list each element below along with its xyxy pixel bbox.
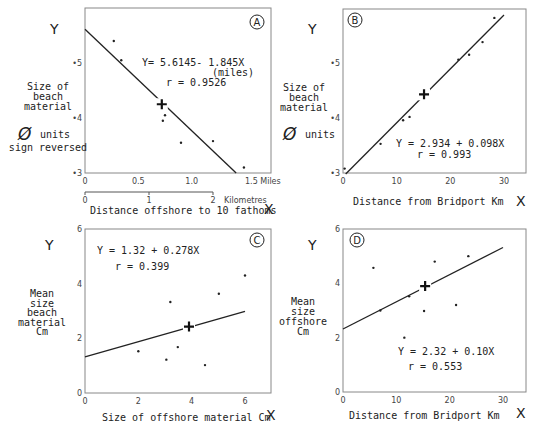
data-point bbox=[403, 336, 405, 338]
regression-equation: Y = 1.32 + 0.278X bbox=[97, 245, 199, 256]
panel-label: B bbox=[352, 15, 359, 26]
data-point bbox=[180, 142, 182, 144]
data-point bbox=[493, 17, 495, 19]
data-point bbox=[218, 293, 220, 295]
y-tick-label: •3 bbox=[330, 169, 340, 178]
x-tick-label: 0 bbox=[340, 396, 345, 405]
data-point bbox=[162, 120, 164, 122]
panel-label: C bbox=[254, 235, 261, 246]
y-tick-label: •5 bbox=[72, 59, 82, 68]
y-tick-label: 6 bbox=[77, 225, 82, 234]
y-axis-units-note: sign reversed bbox=[9, 142, 87, 153]
data-point bbox=[137, 350, 139, 352]
data-point bbox=[343, 167, 345, 169]
y-axis-label: material bbox=[24, 101, 72, 112]
y-tick-label: 0 bbox=[77, 389, 82, 398]
panel-d: 01020300246DY = 2.32 + 0.10Xr = 0.553YXM… bbox=[279, 225, 526, 421]
data-point bbox=[177, 346, 179, 348]
secondary-x-unit-label: Kilometres bbox=[224, 196, 267, 205]
y-tick-label: 4 bbox=[335, 279, 340, 288]
x-tick-label: 30 bbox=[498, 396, 508, 405]
panel-b: 0102030•3•4•5BY = 2.934 + 0.098Xr = 0.99… bbox=[280, 9, 526, 209]
x-axis-label: Distance offshore to 10 fathoms bbox=[90, 205, 277, 216]
y-axis-label: Cm bbox=[36, 326, 48, 337]
panel-label: A bbox=[254, 17, 261, 28]
y-tick-label: 2 bbox=[335, 334, 340, 343]
data-point bbox=[423, 310, 425, 312]
correlation-label: r = 0.9526 bbox=[166, 77, 226, 88]
data-point bbox=[408, 116, 410, 118]
x-tick-label: 6 bbox=[242, 397, 247, 406]
data-point bbox=[379, 309, 381, 311]
x-tick-label: 2 bbox=[136, 397, 141, 406]
y-axis-letter: Y bbox=[307, 21, 317, 37]
data-point bbox=[165, 358, 167, 360]
data-point bbox=[455, 304, 457, 306]
data-point bbox=[434, 260, 436, 262]
y-axis-label: Cm bbox=[297, 326, 309, 337]
y-tick-label: •4 bbox=[72, 114, 82, 123]
y-axis-letter: Y bbox=[49, 21, 59, 37]
data-point bbox=[244, 274, 246, 276]
regression-line bbox=[85, 311, 245, 357]
y-axis-label: material bbox=[280, 102, 328, 113]
data-point bbox=[204, 364, 206, 366]
y-tick-label: 4 bbox=[77, 280, 82, 289]
x-tick-label: 10 bbox=[392, 177, 402, 186]
y-tick-label: •3 bbox=[72, 169, 82, 178]
secondary-x-tick-label: 0 bbox=[82, 196, 87, 205]
correlation-label: r = 0.399 bbox=[115, 261, 169, 272]
x-tick-label: 20 bbox=[445, 396, 455, 405]
data-point bbox=[243, 166, 245, 168]
y-tick-label: •5 bbox=[330, 59, 340, 68]
x-tick-label: 1.5 Miles bbox=[245, 177, 281, 186]
panel-a: 00.51.01.5 Miles•3•4•5012KilometresAY= 5… bbox=[9, 8, 281, 217]
y-axis-units: units bbox=[40, 129, 70, 140]
x-axis-label: Distance from Bridport Km bbox=[349, 410, 500, 421]
data-point bbox=[212, 140, 214, 142]
data-point bbox=[468, 54, 470, 56]
x-tick-label: 4 bbox=[189, 397, 194, 406]
y-axis-letter: Y bbox=[307, 237, 317, 253]
x-axis-letter: X bbox=[516, 193, 526, 209]
data-point bbox=[402, 119, 404, 121]
y-tick-label: 0 bbox=[335, 388, 340, 397]
y-axis-units: units bbox=[305, 129, 335, 140]
panel-label: D bbox=[353, 235, 361, 246]
data-point bbox=[169, 301, 171, 303]
regression-equation: Y = 2.32 + 0.10X bbox=[398, 346, 494, 357]
phi-symbol-icon: Ø bbox=[17, 124, 32, 144]
data-point bbox=[408, 295, 410, 297]
x-axis-label: Size of offshore material Cm bbox=[102, 412, 271, 423]
data-point bbox=[372, 267, 374, 269]
correlation-label: r = 0.553 bbox=[408, 361, 462, 372]
plot-frame bbox=[85, 8, 271, 173]
panel-c: 02460246CY = 1.32 + 0.278Xr = 0.399YXMea… bbox=[18, 225, 276, 423]
y-tick-label: 2 bbox=[77, 334, 82, 343]
data-point bbox=[164, 114, 166, 116]
x-tick-label: 0 bbox=[82, 177, 87, 186]
data-point bbox=[113, 40, 115, 42]
x-axis-letter: X bbox=[516, 405, 526, 421]
regression-equation: Y = 2.934 + 0.098X bbox=[396, 138, 504, 149]
secondary-x-tick-label: 2 bbox=[210, 196, 215, 205]
y-tick-label: •4 bbox=[330, 114, 340, 123]
figure-canvas: 00.51.01.5 Miles•3•4•5012KilometresAY= 5… bbox=[0, 0, 533, 432]
correlation-label: r = 0.993 bbox=[417, 149, 471, 160]
x-tick-label: 30 bbox=[499, 177, 509, 186]
x-tick-label: 1.0 bbox=[185, 177, 198, 186]
x-tick-label: 0.5 bbox=[132, 177, 145, 186]
data-point bbox=[379, 143, 381, 145]
x-tick-label: 20 bbox=[445, 177, 455, 186]
x-tick-label: 0 bbox=[340, 177, 345, 186]
y-tick-label: 6 bbox=[335, 225, 340, 234]
phi-symbol-icon: Ø bbox=[282, 124, 297, 144]
y-axis-letter: Y bbox=[44, 237, 54, 253]
data-point bbox=[457, 59, 459, 61]
x-tick-label: 10 bbox=[391, 396, 401, 405]
data-point bbox=[481, 41, 483, 43]
x-axis-label: Distance from Bridport Km bbox=[353, 196, 504, 207]
x-tick-label: 0 bbox=[82, 397, 87, 406]
secondary-x-tick-label: 1 bbox=[146, 196, 151, 205]
data-point bbox=[467, 255, 469, 257]
